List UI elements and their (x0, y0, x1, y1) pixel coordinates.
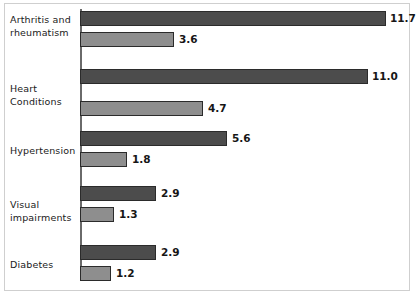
category-label-hypertension: Hypertension (10, 145, 76, 158)
category-label-visual: Visual impairments (10, 199, 76, 224)
bar-hypertension-light (80, 152, 127, 167)
bar-arthritis-light (80, 32, 174, 47)
category-label-line: impairments (10, 212, 76, 225)
bar-visual-dark (80, 186, 156, 201)
bar-value-visual-light: 1.3 (119, 207, 138, 222)
bar-heart-dark (80, 69, 368, 84)
category-label-line: Diabetes (10, 259, 76, 272)
bar-chart: Arthritis and rheumatism 11.7 3.6 Heart … (0, 0, 416, 300)
bar-diabetes-light (80, 266, 111, 281)
category-label-line: Hypertension (10, 145, 76, 158)
category-label-line: Visual (10, 199, 76, 212)
bar-hypertension-dark (80, 131, 227, 146)
bar-diabetes-dark (80, 245, 156, 260)
bar-value-heart-dark: 11.0 (372, 69, 398, 84)
bar-value-hypertension-light: 1.8 (132, 152, 151, 167)
category-label-line: Heart (10, 83, 76, 96)
category-label-diabetes: Diabetes (10, 259, 76, 272)
bar-value-diabetes-light: 1.2 (116, 266, 135, 281)
bar-heart-light (80, 101, 203, 116)
category-label-line: rheumatism (10, 27, 76, 40)
bar-value-diabetes-dark: 2.9 (161, 245, 180, 260)
category-label-arthritis: Arthritis and rheumatism (10, 14, 76, 39)
bar-value-arthritis-light: 3.6 (179, 32, 198, 47)
category-label-line: Conditions (10, 96, 76, 109)
plot-area: Arthritis and rheumatism 11.7 3.6 Heart … (0, 0, 416, 300)
bar-value-arthritis-dark: 11.7 (390, 11, 416, 26)
bar-value-visual-dark: 2.9 (161, 186, 180, 201)
bar-value-heart-light: 4.7 (208, 101, 227, 116)
category-label-heart: Heart Conditions (10, 83, 76, 108)
category-label-line: Arthritis and (10, 14, 76, 27)
bar-value-hypertension-dark: 5.6 (232, 131, 251, 146)
bar-visual-light (80, 207, 114, 222)
bar-arthritis-dark (80, 11, 386, 26)
